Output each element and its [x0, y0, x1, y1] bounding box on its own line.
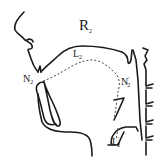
palate — [41, 46, 132, 72]
label-n2-prime: N'2 — [121, 76, 130, 88]
upper-incisor — [38, 66, 41, 72]
label-n2: N2 — [23, 73, 33, 85]
epiglottis — [114, 98, 124, 120]
tongue-tip — [44, 82, 60, 126]
face-profile — [15, 12, 38, 72]
title-label: R2 — [79, 17, 92, 34]
tract-midline — [43, 60, 119, 118]
vocal-tract-diagram: R2 N2 L2 N'2 L'2 — [0, 0, 167, 161]
label-l2: L2 — [73, 48, 82, 60]
jaw-line — [38, 94, 92, 156]
spine — [143, 48, 153, 155]
label-l2-prime: L'2 — [112, 136, 120, 148]
diagram-svg: R2 N2 L2 N'2 L'2 — [0, 0, 167, 161]
